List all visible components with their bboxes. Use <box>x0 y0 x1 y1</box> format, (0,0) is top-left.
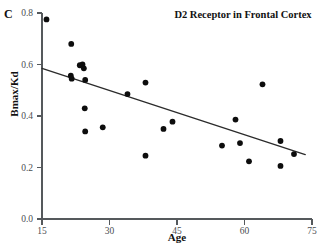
scatter-point <box>260 81 266 87</box>
y-tick-label: 0.4 <box>21 111 33 121</box>
figure-panel: C D2 Receptor in Frontal Cortex Bmax/Kd … <box>0 0 328 251</box>
scatter-point <box>278 138 284 144</box>
scatter-point <box>170 119 176 125</box>
scatter-point <box>246 158 252 164</box>
y-tick-label: 0.6 <box>21 60 33 70</box>
x-tick-label: 75 <box>307 226 317 236</box>
x-tick-label: 60 <box>240 226 250 236</box>
y-tick-label: 0.0 <box>21 214 33 224</box>
scatter-point <box>278 163 284 169</box>
data-points <box>44 17 297 169</box>
scatter-point <box>82 129 88 135</box>
x-tick-label: 15 <box>37 226 47 236</box>
scatter-point <box>82 105 88 111</box>
x-axis-ticks: 1530456075 <box>37 219 317 236</box>
scatter-plot: 0.00.20.40.60.8 1530456075 <box>0 0 328 251</box>
regression-line <box>42 68 305 154</box>
axes <box>42 13 312 219</box>
regression-line-segment <box>42 68 305 154</box>
scatter-point <box>161 126 167 132</box>
scatter-point <box>291 151 297 157</box>
scatter-point <box>68 41 74 47</box>
x-tick-label: 30 <box>105 226 115 236</box>
scatter-point <box>143 80 149 86</box>
scatter-point <box>233 117 239 123</box>
scatter-point <box>100 124 106 130</box>
scatter-point <box>219 143 225 149</box>
y-axis-ticks: 0.00.20.40.60.8 <box>21 8 42 224</box>
scatter-point <box>143 153 149 159</box>
scatter-point <box>81 65 87 71</box>
y-tick-label: 0.8 <box>21 8 33 18</box>
scatter-point <box>82 77 88 83</box>
x-tick-label: 45 <box>172 226 182 236</box>
y-tick-label: 0.2 <box>21 163 33 173</box>
scatter-point <box>69 76 75 82</box>
scatter-point <box>125 91 131 97</box>
scatter-point <box>237 140 243 146</box>
scatter-point <box>44 17 50 23</box>
